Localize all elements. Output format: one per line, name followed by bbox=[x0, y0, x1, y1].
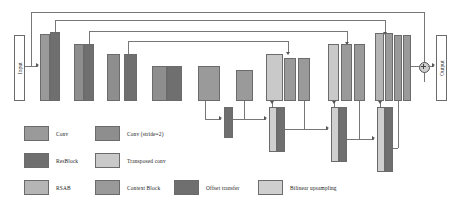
block-enc3-conv bbox=[107, 54, 120, 101]
block-dec3-conv bbox=[394, 35, 402, 101]
block-enc2-conv bbox=[74, 44, 84, 101]
skip-connection-outer-horizontal bbox=[31, 12, 425, 13]
block-dec3-res bbox=[385, 33, 393, 101]
legend-label-bilinear-upsampling: Bilinear upsampling bbox=[290, 185, 337, 191]
block-dec2-res bbox=[341, 44, 352, 101]
block-dec2-tconv bbox=[328, 44, 339, 101]
legend-item-resblock: ResBlock bbox=[24, 153, 78, 168]
block-dec3-rsab bbox=[375, 33, 384, 101]
input-box: Input bbox=[14, 35, 25, 101]
block-context-block-1 bbox=[198, 66, 220, 101]
legend-label-offset-transfer: Offset transfer bbox=[206, 185, 239, 191]
legend-item-offset-transfer: Offset transfer bbox=[174, 180, 239, 195]
legend-item-conv-stride2: Conv (stride=2) bbox=[95, 126, 164, 141]
legend-label-conv-stride2: Conv (stride=2) bbox=[127, 131, 164, 137]
block-enc1-res bbox=[50, 32, 60, 101]
block-dec3-conv2 bbox=[403, 35, 411, 101]
skip-connection-1-horizontal bbox=[55, 20, 385, 21]
skip-connection-outer-vertical-left bbox=[31, 12, 32, 66]
legend-item-transposed-conv: Transposed conv bbox=[95, 153, 166, 168]
legend-swatch-context-block bbox=[95, 180, 120, 195]
offset-path-c-up1-arrow bbox=[332, 101, 336, 104]
offset-path-b-up1-arrow bbox=[270, 101, 274, 104]
offset-path-d-up1-arrow bbox=[378, 101, 382, 104]
legend-swatch-rsab bbox=[24, 180, 49, 195]
block-enc4-conv bbox=[152, 66, 167, 101]
legend-label-resblock: ResBlock bbox=[56, 158, 78, 164]
block-enc3-res bbox=[124, 54, 137, 101]
legend-swatch-conv-stride2 bbox=[95, 126, 120, 141]
input-to-encoder-arrow bbox=[36, 63, 39, 67]
legend-item-context-block: Context Block bbox=[95, 180, 160, 195]
input-label: Input bbox=[17, 62, 23, 74]
legend-item-bilinear-upsampling: Bilinear upsampling bbox=[258, 180, 337, 195]
legend-swatch-resblock bbox=[24, 153, 49, 168]
legend-swatch-offset-transfer bbox=[174, 180, 199, 195]
block-dec1-conv bbox=[298, 58, 310, 101]
offset-path-a-down bbox=[205, 101, 206, 119]
skip-connection-3-horizontal bbox=[128, 41, 288, 42]
legend-item-rsab: RSAB bbox=[24, 180, 71, 195]
architecture-diagram: Input Output bbox=[0, 0, 455, 211]
legend-swatch-transposed-conv bbox=[95, 153, 120, 168]
block-dec1-tconv bbox=[266, 54, 283, 101]
legend-swatch-conv bbox=[24, 126, 49, 141]
skip-connection-3-arrow bbox=[286, 52, 290, 55]
sum-to-output-arrow bbox=[432, 63, 435, 67]
legend-item-conv: Conv bbox=[24, 126, 68, 141]
legend-label-context-block: Context Block bbox=[127, 185, 160, 191]
legend-label-transposed-conv: Transposed conv bbox=[127, 158, 166, 164]
legend-label-conv: Conv bbox=[56, 131, 68, 137]
block-dec2-conv bbox=[354, 44, 365, 101]
output-box: Output bbox=[436, 35, 447, 101]
skip-connection-2-horizontal bbox=[89, 31, 347, 32]
block-enc2-res bbox=[84, 44, 94, 101]
output-label: Output bbox=[439, 60, 445, 76]
legend-label-rsab: RSAB bbox=[56, 185, 71, 191]
block-enc4-res bbox=[167, 66, 182, 101]
block-enc1-conv bbox=[40, 34, 50, 101]
legend: Conv Conv (stride=2) ResBlock Transposed… bbox=[0, 118, 455, 211]
block-context-block-2 bbox=[236, 70, 253, 101]
sum-node bbox=[419, 62, 430, 73]
block-dec1-res bbox=[284, 58, 296, 101]
offset-path-a-up bbox=[244, 101, 245, 119]
legend-swatch-bilinear-upsampling bbox=[258, 180, 283, 195]
